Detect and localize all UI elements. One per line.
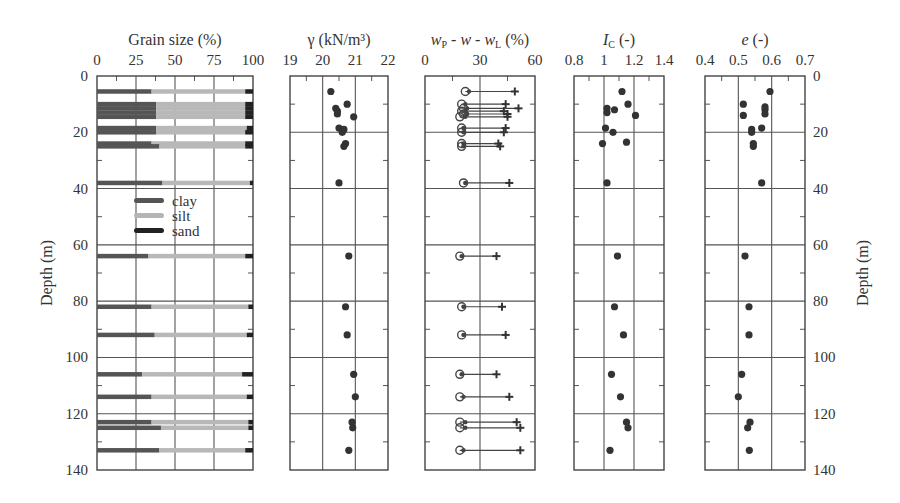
data-point xyxy=(748,129,755,136)
ic-title: IC (-) xyxy=(602,31,635,50)
clay-bar xyxy=(97,426,161,431)
legend-swatch-clay xyxy=(134,198,164,203)
data-point xyxy=(614,253,621,260)
silt-bar xyxy=(155,333,247,338)
data-point xyxy=(335,179,342,186)
sand-bar xyxy=(248,426,253,431)
sand-bar xyxy=(242,372,253,377)
data-point xyxy=(344,331,351,338)
y-tick-label: 140 xyxy=(66,462,89,478)
legend-label-sand: sand xyxy=(172,223,200,239)
y-tick-label: 120 xyxy=(66,406,89,422)
data-point xyxy=(342,303,349,310)
sand-bar xyxy=(248,305,253,310)
legend-swatch-sand xyxy=(134,228,164,233)
data-point xyxy=(623,139,630,146)
x-tick-label: 19 xyxy=(283,52,298,68)
data-point xyxy=(349,424,356,431)
y-tick-label: 40 xyxy=(73,181,88,197)
x-tick-label: 0.7 xyxy=(796,52,815,68)
x-tick-label: 0.5 xyxy=(729,52,748,68)
data-point xyxy=(761,110,768,117)
x-tick-label: 30 xyxy=(473,52,488,68)
depth-axis-label-right: Depth (m) xyxy=(854,240,872,306)
y-tick-label: 80 xyxy=(73,293,88,309)
x-tick-label: 60 xyxy=(528,52,543,68)
y-tick-label: 0 xyxy=(81,68,89,84)
soil-profile-chart: 0255075100claysiltsand020406080100120140… xyxy=(0,0,900,503)
atterberg-panel: 03060 xyxy=(421,52,542,470)
data-point xyxy=(620,331,627,338)
silt-bar xyxy=(159,448,245,453)
y-tick-label-right: 0 xyxy=(813,68,821,84)
data-point xyxy=(599,140,606,147)
silt-bar xyxy=(152,89,246,94)
y-tick-label-right: 140 xyxy=(813,462,836,478)
sand-bar xyxy=(248,420,253,425)
x-tick-label: 0.4 xyxy=(696,52,715,68)
silt-bar xyxy=(148,254,245,259)
data-point xyxy=(766,88,773,95)
y-tick-label: 60 xyxy=(73,237,88,253)
x-tick-label: 0.6 xyxy=(762,52,781,68)
y-tick-label-right: 60 xyxy=(813,237,828,253)
gamma-panel: 19202122 xyxy=(283,52,396,470)
data-point xyxy=(606,447,613,454)
e-title: e (-) xyxy=(741,31,768,49)
x-tick-label: 25 xyxy=(129,52,144,68)
clay-bar xyxy=(97,372,142,377)
sand-bar xyxy=(247,333,253,338)
sand-bar xyxy=(245,254,253,259)
data-point xyxy=(603,179,610,186)
silt-bar xyxy=(152,305,249,310)
clay-bar xyxy=(97,110,156,115)
y-tick-label-right: 40 xyxy=(813,181,828,197)
x-tick-label: 0.8 xyxy=(565,52,584,68)
x-tick-label: 21 xyxy=(348,52,363,68)
w-marker xyxy=(461,333,465,337)
data-point xyxy=(632,112,639,119)
data-point xyxy=(611,303,618,310)
silt-bar xyxy=(156,126,246,131)
w-marker xyxy=(459,254,463,258)
grain-title: Grain size (%) xyxy=(128,31,221,49)
w-marker xyxy=(461,395,465,399)
silt-bar xyxy=(156,110,245,115)
w-marker xyxy=(461,144,465,148)
sand-bar xyxy=(245,144,253,149)
data-point xyxy=(746,447,753,454)
clay-bar xyxy=(97,115,156,120)
clay-bar xyxy=(97,102,156,107)
silt-bar xyxy=(163,181,250,186)
x-tick-label: 100 xyxy=(242,52,265,68)
gamma-plot-frame xyxy=(290,76,388,470)
data-point xyxy=(624,424,631,431)
clay-bar xyxy=(97,126,156,131)
data-point xyxy=(327,88,334,95)
atterberg-title: wP - w - wL (%) xyxy=(431,31,529,50)
sand-bar xyxy=(250,181,253,186)
y-tick-label: 100 xyxy=(66,349,89,365)
clay-bar xyxy=(97,305,152,310)
w-marker xyxy=(461,448,465,452)
clay-bar xyxy=(97,420,152,425)
silt-bar xyxy=(156,106,245,111)
e-plot-frame xyxy=(705,76,805,470)
data-point xyxy=(602,124,609,131)
w-marker xyxy=(461,130,465,134)
data-point xyxy=(624,101,631,108)
data-point xyxy=(744,424,751,431)
legend-label-silt: silt xyxy=(172,208,191,224)
data-point xyxy=(741,253,748,260)
silt-bar xyxy=(152,395,247,400)
data-point xyxy=(609,129,616,136)
data-point xyxy=(350,113,357,120)
w-marker xyxy=(467,89,471,93)
sand-bar xyxy=(245,102,253,107)
data-point xyxy=(617,393,624,400)
silt-bar xyxy=(156,115,245,120)
clay-bar xyxy=(97,106,156,111)
x-tick-label: 0 xyxy=(421,52,429,68)
sand-bar xyxy=(247,126,253,131)
w-marker xyxy=(463,426,467,430)
